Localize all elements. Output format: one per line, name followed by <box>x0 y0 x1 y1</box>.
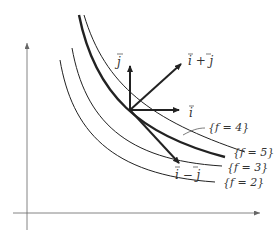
curve-f2 <box>60 60 215 182</box>
label-f5: {f = 5} <box>233 146 274 159</box>
vector-i-minus-j <box>130 110 179 163</box>
gradient-vectors <box>130 64 181 163</box>
axes <box>13 43 260 230</box>
label-i-plus-j: i + j <box>188 54 214 68</box>
label-j: j <box>114 55 121 69</box>
label-f2: {f = 2} <box>223 176 264 189</box>
label-f4: {f = 4} <box>208 121 249 134</box>
vector-labels: j i + j i i − j <box>114 54 214 182</box>
label-f3: {f = 3} <box>227 161 268 174</box>
level-curves <box>60 15 245 182</box>
label-i-minus-j: i − j <box>175 168 201 182</box>
level-curves-diagram: j i + j i i − j {f = 4} {f = 5} {f = 3} … <box>0 0 275 244</box>
label-i: i <box>189 106 193 120</box>
vector-i-plus-j <box>130 64 181 110</box>
